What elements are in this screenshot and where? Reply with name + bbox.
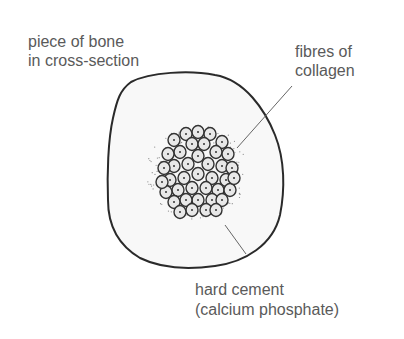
collagen-label-line2: collagen [295, 61, 355, 80]
bone-label-line1: piece of bone [28, 32, 124, 51]
bone-label-line2: in cross-section [28, 51, 139, 70]
cement-label-line2: (calcium phosphate) [195, 300, 339, 319]
cement-label-line1: hard cement [195, 280, 284, 299]
collagen-label-line1: fibres of [295, 42, 352, 61]
